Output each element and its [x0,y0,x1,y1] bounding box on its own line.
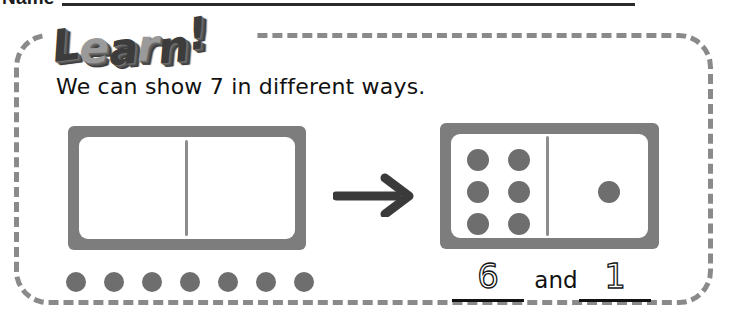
right-arrow-icon [333,173,417,217]
domino-pip [467,213,489,235]
banner-letter: r [136,17,157,75]
name-field-row: Name [0,0,745,9]
counter-chip[interactable] [218,272,238,292]
domino-pip [598,181,620,203]
banner-letter: a [106,19,140,79]
instruction-text: We can show 7 in different ways. [56,74,426,99]
counter-chip[interactable] [104,272,124,292]
domino-pip [508,181,530,203]
counter-chip[interactable] [294,272,314,292]
domino-pip [508,149,530,171]
empty-part-part-whole-mat[interactable] [68,126,306,250]
counter-chip[interactable] [256,272,276,292]
name-write-line[interactable] [62,3,635,6]
counter-chip[interactable] [66,272,86,292]
worksheet-page: Name Learn! We can show 7 in different w… [0,0,745,327]
domino-pip [508,213,530,235]
answer-trace-first: 6 [452,254,524,298]
answer-write-line[interactable] [579,299,651,302]
domino-pip [467,149,489,171]
mat-center-divider [185,140,188,236]
answer-slot-first[interactable]: 6 [452,258,524,302]
answer-area: 6 and 1 [452,258,662,306]
answer-write-line[interactable] [452,299,524,302]
learn-banner-title: Learn! [50,6,208,73]
counter-chip[interactable] [180,272,200,292]
domino-center-divider [546,136,549,236]
domino-pip [467,181,489,203]
counter-chip[interactable] [142,272,162,292]
domino-six-and-one[interactable] [440,123,659,249]
answer-connector: and [531,260,581,300]
answer-slot-second[interactable]: 1 [579,258,651,302]
name-label: Name [2,0,55,9]
answer-trace-second: 1 [579,254,651,298]
banner-letter: e [79,18,109,77]
